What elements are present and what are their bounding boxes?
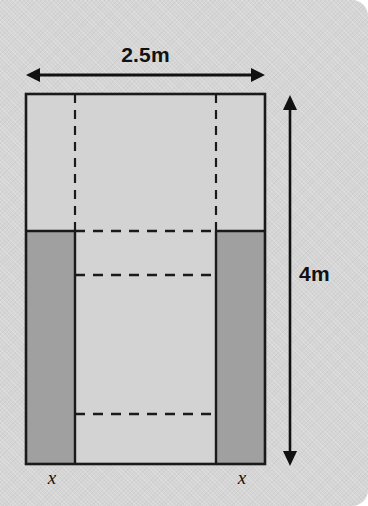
shaded-strip-right xyxy=(216,231,265,464)
shaded-strip-left xyxy=(26,231,75,464)
height-dimension-arrow xyxy=(283,95,297,466)
arrowhead-left xyxy=(26,68,40,82)
width-dimension-arrow xyxy=(26,68,265,82)
width-dimension-label: 2.5m xyxy=(0,44,291,65)
strip-width-label-left: x xyxy=(42,468,62,487)
figure-page: 2.5m 4m x x xyxy=(0,0,368,506)
height-dimension-label: 4m xyxy=(299,263,330,284)
arrowhead-down xyxy=(283,451,297,466)
arrowhead-right xyxy=(251,68,265,82)
arrowhead-up xyxy=(283,95,297,110)
geometry-diagram xyxy=(0,0,368,506)
strip-width-label-right: x xyxy=(232,468,252,487)
